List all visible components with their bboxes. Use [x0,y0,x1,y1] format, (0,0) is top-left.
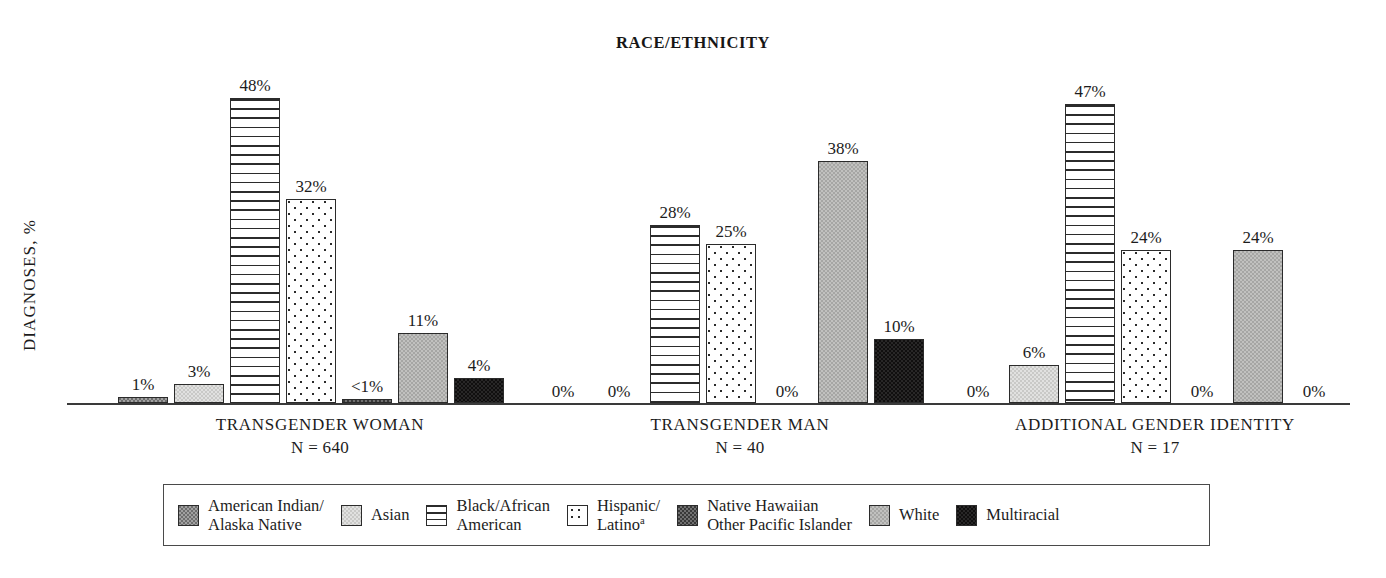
bar-value-label: 0% [776,382,799,402]
bar-value-label: 3% [188,362,211,382]
legend-label-line1: Black/African [456,496,549,515]
bar-value-label: 10% [883,317,914,337]
bar-white-group-2: 24% [1233,250,1283,403]
legend-label-line2: Latinoa [597,515,660,534]
legend-item-white[interactable]: White [869,505,939,526]
bar-value-label: 0% [552,382,575,402]
bar-value-label: 6% [1023,343,1046,363]
bar-value-label: 0% [1191,382,1214,402]
bar-value-label: 48% [239,76,270,96]
bar-white-group-0: 11% [398,333,448,403]
group-label-1-n: N = 40 [540,437,940,460]
legend-item-nhopi[interactable]: Native HawaiianOther Pacific Islander [677,496,852,535]
legend-item-aian[interactable]: American Indian/Alaska Native [178,496,324,535]
bar-value-label: 28% [659,203,690,223]
group-label-2: ADDITIONAL GENDER IDENTITY N = 17 [955,414,1355,459]
bar-multi-group-0: 4% [454,378,504,403]
legend-swatch-asian-icon [341,505,362,526]
bar-black-group-2: 47% [1065,104,1115,403]
bar-white-group-1: 38% [818,161,868,403]
group-label-1-name: TRANSGENDER MAN [540,414,940,437]
legend-label-asian: Asian [371,505,410,524]
chart-title: RACE/ETHNICITY [0,33,1386,53]
legend-label-multi: Multiracial [986,505,1059,524]
legend-label-line2: American [456,515,549,534]
bar-value-label: 24% [1130,228,1161,248]
group-label-1: TRANSGENDER MAN N = 40 [540,414,940,459]
bar-value-label: 0% [967,382,990,402]
bar-value-label: 0% [608,382,631,402]
y-axis-label: DIAGNOSES, % [20,219,40,351]
legend-label-nhopi: Native HawaiianOther Pacific Islander [707,496,852,535]
bar-value-label: 38% [827,139,858,159]
legend-item-asian[interactable]: Asian [341,505,410,526]
legend-swatch-multi-icon [956,505,977,526]
group-label-2-name: ADDITIONAL GENDER IDENTITY [955,414,1355,437]
legend-label-hisp: Hispanic/Latinoa [597,496,660,535]
group-label-0-name: TRANSGENDER WOMAN [120,414,520,437]
y-axis-label-container: DIAGNOSES, % [10,170,50,400]
legend: American Indian/Alaska NativeAsianBlack/… [163,484,1210,546]
legend-label-line2: Alaska Native [208,515,324,534]
legend-label-line1: Asian [371,505,410,524]
legend-label-line1: American Indian/ [208,496,324,515]
legend-item-multi[interactable]: Multiracial [956,505,1059,526]
bar-multi-group-1: 10% [874,339,924,403]
bar-asian-group-2: 6% [1009,365,1059,403]
bar-nhopi-group-0: <1% [342,399,392,403]
bar-value-label: <1% [351,377,383,397]
bar-hisp-group-1: 25% [706,244,756,403]
plot-area: 1%3%48%32%<1%11%4%0%0%28%25%0%38%10%0%6%… [67,60,1350,405]
legend-label-line2: Other Pacific Islander [707,515,852,534]
legend-swatch-nhopi-icon [677,505,698,526]
bar-black-group-1: 28% [650,225,700,403]
bar-value-label: 25% [715,222,746,242]
group-label-0: TRANSGENDER WOMAN N = 640 [120,414,520,459]
legend-swatch-aian-icon [178,505,199,526]
legend-swatch-white-icon [869,505,890,526]
bar-hisp-group-0: 32% [286,199,336,403]
legend-item-hisp[interactable]: Hispanic/Latinoa [567,496,660,535]
bar-value-label: 1% [132,375,155,395]
legend-label-white: White [899,505,939,524]
legend-label-line1: White [899,505,939,524]
bar-value-label: 4% [468,356,491,376]
legend-item-black[interactable]: Black/AfricanAmerican [426,496,549,535]
bar-value-label: 11% [408,311,439,331]
bar-aian-group-0: 1% [118,397,168,403]
bar-value-label: 0% [1303,382,1326,402]
legend-label-line1: Hispanic/ [597,496,660,515]
legend-swatch-black-icon [426,505,447,526]
bar-asian-group-0: 3% [174,384,224,403]
group-label-0-n: N = 640 [120,437,520,460]
bar-value-label: 47% [1074,82,1105,102]
legend-label-aian: American Indian/Alaska Native [208,496,324,535]
race-ethnicity-bar-chart: RACE/ETHNICITY DIAGNOSES, % 1%3%48%32%<1… [0,0,1386,578]
bar-value-label: 24% [1242,228,1273,248]
bar-value-label: 32% [295,177,326,197]
legend-label-black: Black/AfricanAmerican [456,496,549,535]
x-axis-line [67,403,1350,405]
legend-swatch-hisp-icon [567,505,588,526]
legend-label-line1: Native Hawaiian [707,496,818,515]
bar-hisp-group-2: 24% [1121,250,1171,403]
group-label-2-n: N = 17 [955,437,1355,460]
legend-footnote-marker: a [640,515,645,526]
legend-label-line1: Multiracial [986,505,1059,524]
bar-black-group-0: 48% [230,98,280,403]
